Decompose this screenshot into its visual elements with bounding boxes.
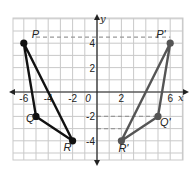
vertex-label: R' [118,142,129,154]
x-tick-label: 2 [119,93,125,104]
vertex-point [20,40,27,47]
vertex-point [167,40,174,47]
y-axis-arrow-down-icon [94,160,100,166]
y-tick-label: 4 [89,38,95,49]
coordinate-plane: xy -6-4-202642-2-4 PQRP'Q'R' [0,0,191,171]
vertex-label: Q [26,112,35,124]
x-axis-arrow-right-icon [183,89,189,95]
x-tick-label: 0 [85,93,91,104]
vertex-label: P [32,28,40,40]
x-tick-label: 6 [167,93,173,104]
y-tick-label: -2 [86,111,95,122]
x-axis-arrow-left-icon [9,89,15,95]
x-tick-label: -6 [19,93,28,104]
vertex-label: Q' [160,116,172,128]
x-tick-label: -2 [68,93,77,104]
y-tick-label: -4 [86,136,95,147]
y-tick-label: 2 [89,63,95,74]
x-axis-label: x [178,92,184,103]
vertex-label: R [64,141,72,153]
vertex-label: P' [156,28,166,40]
y-axis-label: y [99,13,106,24]
